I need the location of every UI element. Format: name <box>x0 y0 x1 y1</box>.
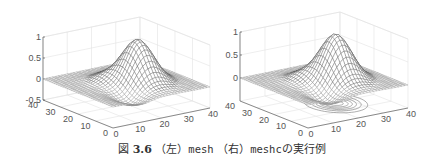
surface-mesh <box>43 40 210 107</box>
right-command: meshc <box>250 143 282 155</box>
svg-text:0: 0 <box>298 128 303 138</box>
svg-text:0: 0 <box>233 73 238 83</box>
svg-text:10: 10 <box>135 124 145 134</box>
left-command: mesh <box>188 143 213 155</box>
svg-text:40: 40 <box>208 109 218 119</box>
svg-text:0: 0 <box>308 129 313 139</box>
svg-text:30: 30 <box>45 107 55 117</box>
svg-text:10: 10 <box>80 121 90 131</box>
svg-text:20: 20 <box>356 119 366 129</box>
svg-text:0: 0 <box>113 129 118 139</box>
svg-text:1: 1 <box>233 27 238 37</box>
svg-text:30: 30 <box>184 114 194 124</box>
caption-suffix: の実行例 <box>282 143 326 156</box>
svg-text:40: 40 <box>28 100 38 110</box>
svg-text:20: 20 <box>259 115 269 125</box>
svg-text:30: 30 <box>381 114 391 124</box>
svg-text:0.5: 0.5 <box>28 53 41 63</box>
right-marker: （右） <box>217 143 250 156</box>
svg-text:40: 40 <box>406 109 416 119</box>
svg-text:20: 20 <box>63 114 73 124</box>
meshc-plot-right: 00.51010203040010203040 <box>225 12 416 139</box>
mesh-plot-left: -0.500.51010203040010203040 <box>25 17 218 139</box>
figure-caption: 図 3.6 （左）mesh （右）meshcの実行例 <box>0 140 444 156</box>
svg-text:40: 40 <box>225 101 235 111</box>
figure-number: 3.6 <box>133 143 152 156</box>
svg-text:0: 0 <box>36 74 41 84</box>
figure-label: 図 <box>118 143 129 156</box>
figure-plots: -0.500.51010203040010203040 00.510102030… <box>0 0 444 140</box>
svg-text:20: 20 <box>159 119 169 129</box>
svg-text:0.5: 0.5 <box>225 50 238 60</box>
svg-text:10: 10 <box>331 124 341 134</box>
left-marker: （左） <box>155 143 188 156</box>
svg-text:10: 10 <box>276 121 286 131</box>
svg-text:1: 1 <box>36 32 41 42</box>
svg-text:30: 30 <box>242 108 252 118</box>
svg-text:0: 0 <box>103 128 108 138</box>
